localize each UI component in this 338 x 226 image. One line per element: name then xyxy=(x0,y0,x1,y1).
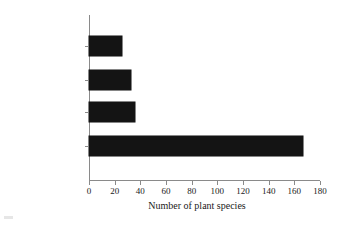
y-axis-tick xyxy=(85,46,89,47)
x-axis-tick xyxy=(140,181,141,185)
x-axis-tick xyxy=(89,181,90,185)
bar-dry-forest xyxy=(89,70,131,90)
x-axis-tick xyxy=(320,181,321,185)
bar-fill xyxy=(89,136,303,156)
x-axis-tick xyxy=(217,181,218,185)
x-axis-tick xyxy=(192,181,193,185)
bar-rupestrian-fields xyxy=(89,36,122,56)
x-axis-tick xyxy=(115,181,116,185)
scan-artifact xyxy=(4,216,13,219)
x-axis-title: Number of plant species xyxy=(0,200,338,212)
x-axis-tick xyxy=(243,181,244,185)
bar-fill xyxy=(89,70,131,90)
bar-fill xyxy=(89,102,135,122)
x-axis-tick xyxy=(166,181,167,185)
x-axis-spine xyxy=(89,180,320,181)
x-axis-tick xyxy=(269,181,270,185)
x-axis-title-text: Number of plant species xyxy=(148,200,245,212)
y-axis-tick xyxy=(85,146,89,147)
bar-fill xyxy=(89,36,122,56)
bar-chart-figure: Rupestrian fieldsDry forestExoticCerrado… xyxy=(0,0,338,226)
y-axis-tick xyxy=(85,80,89,81)
y-axis-tick xyxy=(85,112,89,113)
bar-exotic xyxy=(89,102,135,122)
x-axis-tick-label: 180 xyxy=(305,186,335,197)
bar-cerrado xyxy=(89,136,303,156)
x-axis-tick xyxy=(294,181,295,185)
